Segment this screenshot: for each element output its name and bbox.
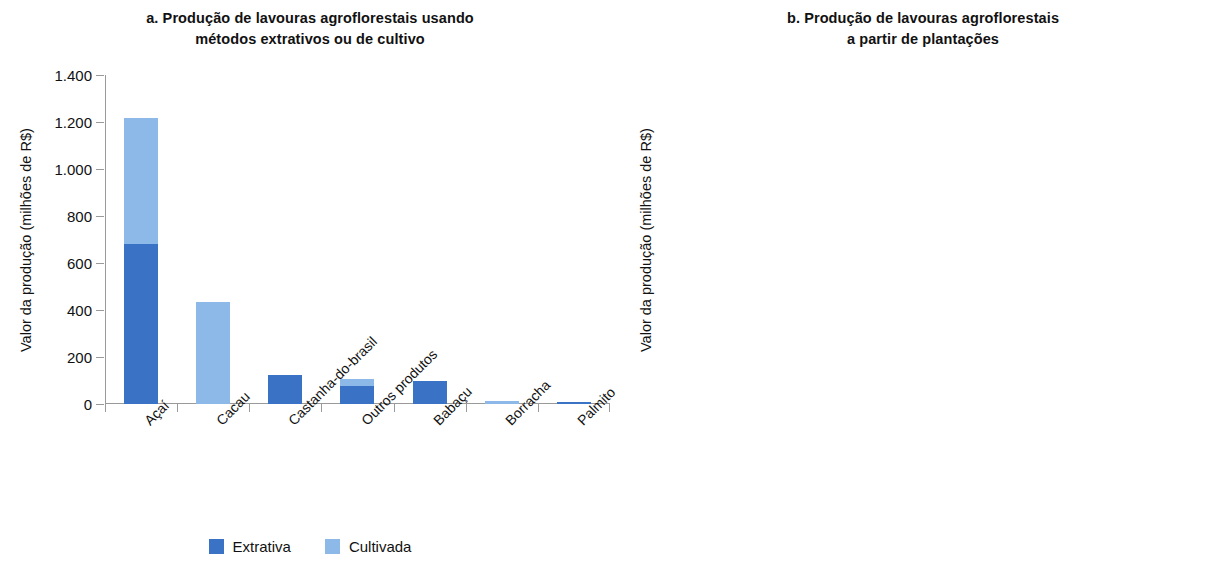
legend-swatch-extrativa (209, 539, 224, 554)
bar[interactable] (124, 118, 158, 404)
y-tick-mark (96, 310, 104, 311)
y-tick-label: 600 (67, 255, 92, 272)
bar-segment-cultivada (340, 379, 374, 386)
legend-label-extrativa: Extrativa (233, 538, 291, 555)
bar[interactable] (196, 302, 230, 404)
x-tick-mark (177, 404, 178, 412)
y-tick-mark (96, 263, 104, 264)
y-tick-label: 800 (67, 208, 92, 225)
y-tick-mark (96, 404, 104, 405)
y-tick-label: 1.400 (54, 67, 92, 84)
chart-b-title-line1: b. Produção de lavouras agroflorestais (787, 10, 1059, 26)
y-tick-label: 0 (84, 396, 92, 413)
chart-a-y-axis-title: Valor da produção (milhões de R$) (18, 128, 34, 352)
y-tick-mark (96, 169, 104, 170)
legend-swatch-cultivada (325, 539, 340, 554)
chart-panel-b: b. Produção de lavouras agroflorestais a… (620, 0, 1226, 568)
y-tick-label: 400 (67, 302, 92, 319)
legend-item-extrativa[interactable]: Extrativa (209, 538, 291, 555)
bar-slot[interactable] (105, 75, 177, 404)
y-tick-label: 200 (67, 349, 92, 366)
y-tick-mark (96, 216, 104, 217)
bar[interactable] (413, 381, 447, 405)
chart-b-title: b. Produção de lavouras agroflorestais a… (620, 8, 1226, 50)
chart-b-y-axis-title: Valor da produção (milhões de R$) (638, 128, 654, 352)
bar-segment-cultivada (124, 118, 158, 244)
y-tick-mark (96, 357, 104, 358)
legend-label-cultivada: Cultivada (349, 538, 412, 555)
bar-slot[interactable] (538, 75, 610, 404)
bar-segment-extrativa (268, 375, 302, 404)
bar-segment-extrativa (124, 244, 158, 404)
bar-slot[interactable] (177, 75, 249, 404)
chart-a-title: a. Produção de lavouras agroflorestais u… (0, 8, 620, 50)
y-tick-mark (96, 122, 104, 123)
x-tick-mark (466, 404, 467, 412)
chart-a-title-line1: a. Produção de lavouras agroflorestais u… (146, 10, 474, 26)
bar-segment-extrativa (413, 381, 447, 405)
bar[interactable] (268, 375, 302, 404)
y-tick-label: 1.000 (54, 161, 92, 178)
x-tick-mark (538, 404, 539, 412)
bar-segment-extrativa (340, 386, 374, 404)
y-tick-label: 1.200 (54, 114, 92, 131)
x-tick-mark (609, 404, 610, 412)
bar-slot[interactable] (466, 75, 538, 404)
bar-slot[interactable] (249, 75, 321, 404)
x-tick-mark (394, 404, 395, 412)
y-tick-mark (96, 75, 104, 76)
chart-a-plot-area: 02004006008001.0001.2001.400 AçaíCacauCa… (105, 75, 610, 404)
chart-legend: ExtrativaCultivada (0, 538, 620, 555)
chart-b-title-line2: a partir de plantações (847, 31, 999, 47)
figure-two-bar-charts: a. Produção de lavouras agroflorestais u… (0, 0, 1226, 568)
chart-panel-a: a. Produção de lavouras agroflorestais u… (0, 0, 620, 568)
bar[interactable] (340, 379, 374, 404)
legend-item-cultivada[interactable]: Cultivada (325, 538, 412, 555)
bar-segment-cultivada (196, 302, 230, 404)
chart-a-title-line2: métodos extrativos ou de cultivo (195, 31, 425, 47)
x-tick-mark (249, 404, 250, 412)
x-tick-mark (105, 404, 106, 412)
x-tick-mark (321, 404, 322, 412)
